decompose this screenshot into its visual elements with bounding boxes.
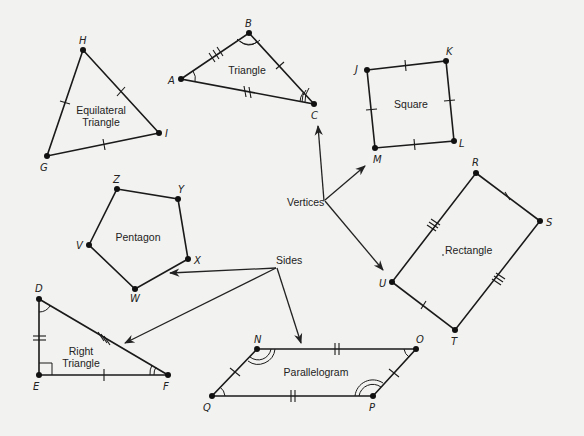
shape-label-equilateral-2: Triangle	[82, 116, 120, 128]
vertex-label-k: K	[446, 46, 454, 57]
shape-label-right-2: Triangle	[62, 357, 100, 369]
shape-label-parallelogram: Parallelogram	[284, 366, 349, 378]
vertices-label: Vertices	[287, 196, 324, 208]
vertex-label-y: Y	[178, 184, 185, 195]
vertex-label-c: C	[311, 110, 318, 121]
vertex-label-q: Q	[203, 402, 211, 413]
vertex-label-v: V	[76, 240, 84, 251]
arrow-to-hypotenuse	[125, 268, 276, 343]
polygon-diagram: H I G Equilateral Triangle A B C Triangl…	[0, 0, 584, 436]
vertex-label-n: N	[254, 334, 262, 345]
vertex-label-i: I	[165, 128, 168, 139]
vertex-label-h: H	[79, 35, 87, 46]
vertex-label-p: P	[369, 402, 376, 413]
vertex-label-r: R	[472, 157, 479, 168]
vertex-label-m: M	[373, 154, 382, 165]
vertex-label-f: F	[163, 381, 169, 392]
arrow-to-u	[325, 201, 383, 270]
vertices-callout: Vertices	[287, 126, 383, 270]
right-triangle-def: D E F Right Triangle	[33, 283, 171, 392]
vertex-label-e: E	[33, 381, 40, 392]
sides-label: Sides	[276, 254, 302, 266]
vertex-label-l: L	[459, 138, 465, 149]
vertex-label-z: Z	[112, 174, 121, 185]
vertex-label-j: J	[353, 64, 358, 75]
vertex-label-t: T	[451, 336, 458, 347]
vertex-label-w: W	[130, 293, 141, 304]
arrow-to-m	[325, 166, 365, 200]
arrow-to-c	[318, 126, 324, 201]
rectangle-rstu: R S T U Rectangle	[379, 157, 553, 347]
shape-label-pentagon: Pentagon	[116, 231, 161, 243]
vertex-label-a: A	[167, 75, 175, 86]
arrow-to-pentagon-side	[170, 268, 276, 273]
vertex-label-x: X	[193, 255, 202, 266]
shape-label-equilateral: Equilateral	[76, 104, 126, 116]
vertex-label-s: S	[546, 217, 553, 228]
shape-label-square: Square	[394, 98, 428, 110]
arrow-to-parallelogram-side	[277, 268, 301, 343]
vertex-label-g: G	[40, 162, 48, 173]
shape-label-triangle: Triangle	[228, 64, 266, 76]
square-jklm: J K L M Square	[353, 46, 465, 165]
equilateral-triangle: H I G Equilateral Triangle	[40, 35, 168, 173]
vertex-label-o: O	[416, 334, 424, 345]
vertex-label-u: U	[379, 278, 387, 289]
shape-label-rectangle: Rectangle	[445, 244, 492, 256]
shape-label-right: Right	[69, 345, 94, 357]
triangle-abc: A B C Triangle	[167, 18, 318, 121]
vertex-label-b: B	[245, 18, 252, 29]
pentagon-vwxyz: Z Y X W V Pentagon	[76, 174, 202, 304]
vertex-label-d: D	[35, 283, 43, 294]
parallelogram-nopq: N O P Q Parallelogram	[203, 334, 424, 413]
sides-callout: Sides	[125, 254, 302, 343]
